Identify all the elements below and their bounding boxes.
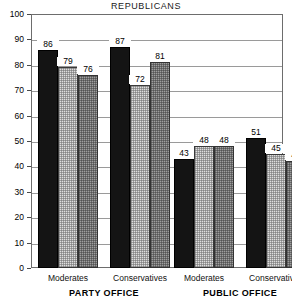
y-tick-label: 0 (0, 263, 24, 273)
y-tick-label: 10 (0, 238, 24, 248)
bar-value-label: 42 (285, 151, 292, 160)
category-label: Moderates (164, 273, 244, 283)
y-tick-mark (27, 90, 31, 91)
bar-value-label: 45 (265, 144, 287, 153)
y-tick-mark (27, 141, 31, 142)
bar-value-label: 86 (37, 40, 59, 49)
bar (174, 159, 194, 268)
bar (130, 85, 150, 268)
y-tick-label: 20 (0, 212, 24, 222)
bar-chart: REPUBLICANS 0102030405060708090100 86797… (0, 0, 292, 300)
y-tick-label: 90 (0, 34, 24, 44)
y-tick-label: 80 (0, 60, 24, 70)
bar-value-label: 48 (213, 136, 235, 145)
y-tick-label: 60 (0, 111, 24, 121)
y-tick-mark (27, 14, 31, 15)
bar (78, 75, 98, 268)
bar-value-label: 87 (109, 37, 131, 46)
section-label: PARTY OFFICE (44, 288, 164, 298)
chart-title: REPUBLICANS (0, 1, 292, 11)
bar (150, 62, 170, 268)
y-tick-label: 100 (0, 9, 24, 19)
bar (214, 146, 234, 268)
bar-value-label: 72 (129, 75, 151, 84)
bar-value-label: 51 (245, 128, 267, 137)
bar (246, 138, 266, 268)
bar (194, 146, 214, 268)
y-tick-mark (27, 39, 31, 40)
y-tick-mark (27, 116, 31, 117)
bar-value-label: 43 (173, 149, 195, 158)
bar (286, 161, 292, 268)
y-tick-label: 40 (0, 161, 24, 171)
bar-value-label: 48 (193, 136, 215, 145)
bar (38, 50, 58, 268)
y-tick-mark (27, 65, 31, 66)
y-tick-mark (27, 243, 31, 244)
y-tick-mark (27, 166, 31, 167)
bar-value-label: 79 (57, 57, 79, 66)
bar-value-label: 81 (149, 52, 171, 61)
bar-value-label: 76 (77, 65, 99, 74)
y-tick-label: 70 (0, 85, 24, 95)
section-label: PUBLIC OFFICE (180, 288, 292, 298)
y-tick-label: 50 (0, 136, 24, 146)
y-tick-mark (27, 268, 31, 269)
gridline (32, 40, 282, 41)
y-tick-mark (27, 217, 31, 218)
bar (266, 154, 286, 268)
y-tick-label: 30 (0, 187, 24, 197)
bar (58, 67, 78, 268)
bar (110, 47, 130, 268)
y-tick-mark (27, 192, 31, 193)
category-label: Moderates (28, 273, 108, 283)
category-label: Conservatives (236, 273, 292, 283)
